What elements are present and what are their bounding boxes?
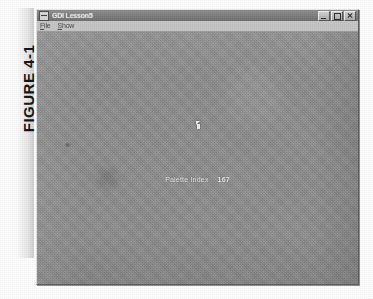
mouse-pointer-stem bbox=[197, 124, 200, 129]
mouse-pointer-icon bbox=[196, 121, 202, 130]
palette-index-label: Palette Index bbox=[165, 176, 208, 183]
title-bar[interactable]: GDI Lesson5 bbox=[37, 10, 358, 21]
scan-blemish bbox=[64, 142, 71, 148]
menu-item-file[interactable]: File bbox=[40, 22, 50, 30]
palette-index-readout: Palette Index167 bbox=[37, 175, 358, 184]
window-menu-icon[interactable] bbox=[39, 11, 49, 21]
window-title: GDI Lesson5 bbox=[52, 12, 315, 20]
window-controls bbox=[318, 11, 357, 21]
palette-index-value: 167 bbox=[218, 176, 230, 183]
menu-item-file-label: ile bbox=[44, 22, 50, 29]
maximize-icon bbox=[334, 13, 341, 20]
maximize-button[interactable] bbox=[331, 11, 343, 21]
figure-label: FIGURE 4-1 bbox=[20, 34, 37, 144]
minimize-button[interactable] bbox=[318, 11, 330, 21]
minimize-icon bbox=[321, 18, 326, 19]
client-vignette bbox=[37, 32, 358, 284]
application-window: GDI Lesson5 File Show bbox=[36, 9, 359, 285]
client-area[interactable]: Palette Index167 bbox=[37, 32, 358, 284]
close-button[interactable] bbox=[344, 11, 356, 21]
client-halftone-texture bbox=[37, 32, 358, 284]
menu-item-show-label: how bbox=[62, 22, 74, 29]
menu-item-show[interactable]: Show bbox=[57, 22, 74, 30]
menu-bar: File Show bbox=[37, 21, 358, 32]
scanned-figure-page: FIGURE 4-1 GDI Lesson5 Fil bbox=[0, 0, 373, 299]
